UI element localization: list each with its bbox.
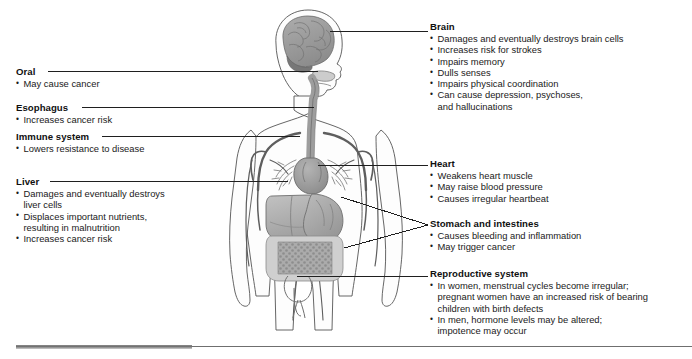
bullet-item: Displaces important nutrients, resulting…: [16, 211, 165, 234]
label-bullets-liver: Damages and eventually destroys liver ce…: [16, 188, 165, 244]
bullet-item: May trigger cancer: [430, 241, 581, 252]
bullet-item: Damages and eventually destroys liver ce…: [16, 188, 165, 211]
label-bullets-brain: Damages and eventually destroys brain ce…: [430, 33, 624, 112]
bullet-item: Weakens heart muscle: [430, 170, 549, 181]
label-block-brain: Brain Damages and eventually destroys br…: [430, 21, 624, 112]
bullet-item: Causes irregular heartbeat: [430, 193, 549, 204]
bullet-item: Increases risk for strokes: [430, 44, 624, 55]
label-block-reproductive-system: Reproductive system In women, menstrual …: [430, 268, 648, 336]
label-heading-heart: Heart: [430, 158, 549, 170]
label-block-esophagus: Esophagus Increases cancer risk: [16, 102, 112, 125]
bullet-item: Dulls senses: [430, 67, 624, 78]
label-heading-stomach-and-intestines: Stomach and intestines: [430, 218, 581, 230]
bullet-item: Impairs physical coordination: [430, 78, 624, 89]
bullet-item: In men, hormone levels may be altered; i…: [430, 314, 648, 337]
bullet-item: In women, menstrual cycles become irregu…: [430, 280, 648, 314]
bullet-item: Impairs memory: [430, 56, 624, 67]
label-heading-immune-system: Immune system: [16, 131, 144, 143]
label-bullets-stomach-and-intestines: Causes bleeding and inflammation May tri…: [430, 230, 581, 253]
label-block-stomach-and-intestines: Stomach and intestines Causes bleeding a…: [430, 218, 581, 253]
footer-rule-thin-segment: [192, 346, 692, 347]
bullet-item: May raise blood pressure: [430, 181, 549, 192]
bullet-item: Increases cancer risk: [16, 114, 112, 125]
bullet-item: Causes bleeding and inflammation: [430, 230, 581, 241]
intestines-organ: [266, 236, 343, 281]
bullet-item: Can cause depression, psychoses, and hal…: [430, 89, 624, 112]
label-bullets-esophagus: Increases cancer risk: [16, 114, 112, 125]
label-bullets-oral: May cause cancer: [16, 78, 100, 89]
heart-organ: [294, 158, 328, 194]
footer-rule-thick-segment: [16, 345, 192, 349]
label-heading-reproductive-system: Reproductive system: [430, 268, 648, 280]
bullet-item: Increases cancer risk: [16, 233, 165, 244]
label-block-heart: Heart Weakens heart muscle May raise blo…: [430, 158, 549, 204]
bullet-item: May cause cancer: [16, 78, 100, 89]
label-bullets-heart: Weakens heart muscle May raise blood pre…: [430, 170, 549, 204]
label-heading-esophagus: Esophagus: [16, 102, 112, 114]
label-block-liver: Liver Damages and eventually destroys li…: [16, 176, 165, 244]
label-heading-liver: Liver: [16, 176, 165, 188]
bullet-item: Damages and eventually destroys brain ce…: [430, 33, 624, 44]
label-block-immune-system: Immune system Lowers resistance to disea…: [16, 131, 144, 154]
footer-rule: [16, 345, 692, 349]
label-bullets-reproductive-system: In women, menstrual cycles become irregu…: [430, 280, 648, 336]
label-heading-brain: Brain: [430, 21, 624, 33]
label-block-oral: Oral May cause cancer: [16, 66, 100, 89]
label-heading-oral: Oral: [16, 66, 100, 78]
label-bullets-immune-system: Lowers resistance to disease: [16, 143, 144, 154]
bullet-item: Lowers resistance to disease: [16, 143, 144, 154]
